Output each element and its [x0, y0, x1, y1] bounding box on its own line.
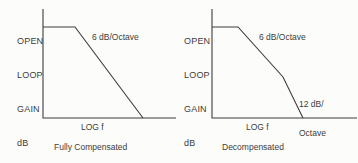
axis-line: [43, 9, 176, 118]
panel-decompensated: OPEN LOOP GAIN dB 6 dB/Octave 12 dB/ Oct…: [179, 0, 358, 163]
slope-label-12db-line: Octave: [299, 129, 326, 139]
slope-label-6db: 6 dB/Octave: [92, 33, 139, 43]
panel-caption: Decompensated: [222, 142, 284, 152]
y-axis-label-line: dB: [17, 138, 43, 149]
y-axis-label-line: OPEN: [17, 36, 43, 47]
panel-caption: Fully Compensated: [54, 142, 127, 152]
y-axis-label-line: LOOP: [17, 70, 43, 81]
x-axis-label: LOG f: [246, 122, 269, 132]
x-axis-label: LOG f: [81, 122, 104, 132]
axis-line: [212, 9, 357, 118]
y-axis-label: OPEN LOOP GAIN dB: [17, 13, 43, 163]
slope-label-12db-line: 12 dB/: [299, 100, 326, 110]
bode-plot-figure: OPEN LOOP GAIN dB 6 dB/Octave LOG f Full…: [0, 0, 358, 163]
y-axis-label-line: LOOP: [184, 70, 210, 81]
slope-label-6db: 6 dB/Octave: [259, 33, 306, 43]
slope-label-12db: 12 dB/ Octave: [299, 81, 326, 157]
panel-fully-compensated: OPEN LOOP GAIN dB 6 dB/Octave LOG f Full…: [0, 0, 179, 163]
y-axis-label: OPEN LOOP GAIN dB: [184, 13, 210, 163]
y-axis-label-line: OPEN: [184, 36, 210, 47]
y-axis-label-line: GAIN: [184, 104, 210, 115]
y-axis-label-line: dB: [184, 138, 210, 149]
y-axis-label-line: GAIN: [17, 104, 43, 115]
